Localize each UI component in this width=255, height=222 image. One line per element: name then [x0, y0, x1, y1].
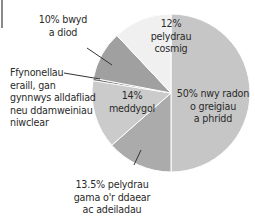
- label-other: Ffynonellau eraill, gan gynnwys alldafli…: [10, 67, 96, 130]
- label-medical: 14% meddygol: [102, 90, 162, 115]
- label-radon: 50% nwy radon o greigiau a phridd: [173, 88, 253, 126]
- label-cosmic: 12% pelydrau cosmig: [142, 18, 200, 56]
- label-food: 10% bwyd a diod: [28, 14, 98, 39]
- label-gamma: 13.5% pelydrau gama o'r ddaear ac adeila…: [66, 179, 158, 217]
